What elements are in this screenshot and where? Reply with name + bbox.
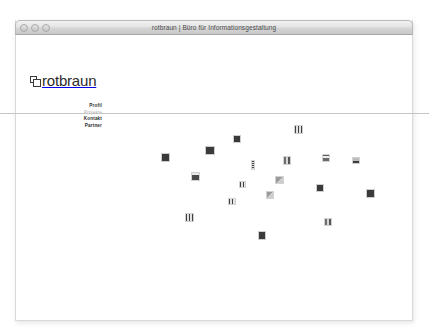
project-thumbnail[interactable] — [316, 184, 324, 192]
project-thumbnail[interactable] — [366, 189, 375, 198]
project-thumbnail[interactable] — [352, 157, 360, 164]
project-thumbnail[interactable] — [283, 156, 291, 165]
window-controls — [20, 24, 50, 32]
project-thumbnail[interactable] — [239, 181, 246, 188]
project-thumbnail[interactable] — [161, 153, 170, 162]
project-thumbnail[interactable] — [233, 135, 241, 143]
project-thumbnail[interactable] — [258, 231, 266, 240]
browser-window: rotbraun | Büro für Informationsgestaltu… — [15, 20, 413, 321]
project-thumbnail[interactable] — [228, 198, 236, 205]
zoom-button[interactable] — [42, 24, 50, 32]
project-thumbnail[interactable] — [205, 146, 215, 155]
window-titlebar[interactable]: rotbraun | Büro für Informationsgestaltu… — [15, 20, 413, 35]
project-thumbnail[interactable] — [322, 154, 330, 162]
minimize-button[interactable] — [31, 24, 39, 32]
project-thumbnail[interactable] — [266, 191, 274, 199]
project-thumbnail-field — [16, 50, 412, 320]
project-thumbnail[interactable] — [294, 125, 303, 134]
project-thumbnail[interactable] — [275, 176, 284, 184]
page-viewport: rotbraun Profil Projekte Kontakt Partner — [16, 35, 412, 320]
project-thumbnail[interactable] — [251, 160, 255, 170]
project-thumbnail[interactable] — [185, 213, 194, 222]
close-button[interactable] — [20, 24, 28, 32]
window-title: rotbraun | Büro für Informationsgestaltu… — [152, 25, 276, 32]
desktop-background: rotbraun | Büro für Informationsgestaltu… — [0, 0, 429, 332]
project-thumbnail[interactable] — [324, 218, 332, 226]
project-thumbnail[interactable] — [191, 172, 200, 181]
